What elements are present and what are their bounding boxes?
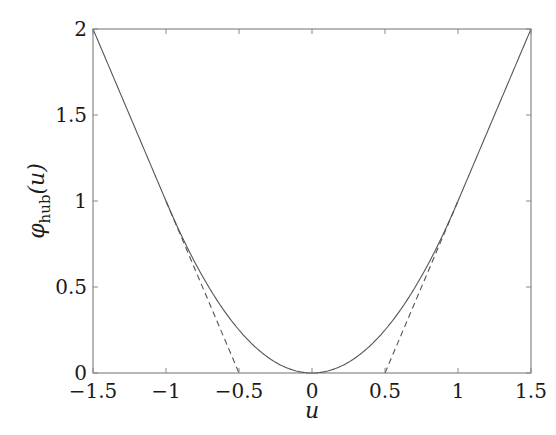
x-tick-label: −0.5 [215, 379, 264, 403]
y-axis-label-symbol: φ [24, 223, 49, 239]
x-tick-label: 1.5 [515, 379, 547, 403]
x-tick-label: 1 [452, 379, 465, 403]
axes-box [93, 29, 531, 373]
huber-curve [93, 29, 531, 373]
y-tick-label: 2 [74, 17, 87, 41]
y-tick-labels: 00.511.52 [55, 17, 87, 385]
x-axis-label: u [305, 398, 319, 423]
axis-ticks [93, 29, 531, 373]
y-tick-label: 0.5 [55, 275, 87, 299]
y-axis-label: φhub(u) [24, 163, 54, 239]
y-tick-label: 1 [74, 189, 87, 213]
y-axis-label-subscript: hub [36, 195, 54, 224]
x-tick-label: 0.5 [369, 379, 401, 403]
x-tick-label: −1 [151, 379, 180, 403]
huber-chart: −1.5−1−0.500.511.5 00.511.52 u φhub(u) [0, 0, 556, 435]
plot-area [93, 29, 531, 373]
y-axis-label-arg: (u) [24, 163, 49, 194]
svg-text:φhub(u): φhub(u) [24, 163, 54, 239]
y-tick-label: 1.5 [55, 103, 87, 127]
y-tick-label: 0 [74, 361, 87, 385]
